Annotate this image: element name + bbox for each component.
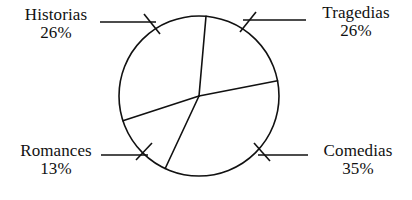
slice-label-comedias-name: Comedias — [306, 142, 410, 160]
pie-chart-figure: Historias 26% Tragedias 26% Romances 13%… — [0, 0, 412, 200]
slice-label-tragedias-name: Tragedias — [304, 4, 408, 22]
slice-label-romances-name: Romances — [2, 142, 110, 160]
tick-mark-tragedias — [240, 12, 256, 32]
slice-label-tragedias-value: 26% — [304, 22, 408, 40]
slice-label-romances-value: 13% — [2, 160, 110, 178]
slice-label-historias-value: 26% — [4, 24, 108, 42]
slice-label-comedias-value: 35% — [306, 160, 410, 178]
slice-label-historias: Historias 26% — [4, 6, 108, 43]
slice-label-tragedias: Tragedias 26% — [304, 4, 408, 41]
slice-label-historias-name: Historias — [4, 6, 108, 24]
slice-label-comedias: Comedias 35% — [306, 142, 410, 179]
slice-label-romances: Romances 13% — [2, 142, 110, 179]
